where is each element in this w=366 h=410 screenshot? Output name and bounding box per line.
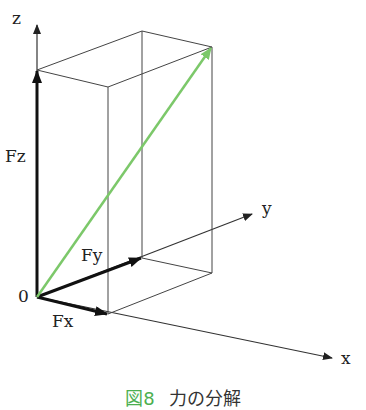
y-axis-label: y	[262, 200, 272, 217]
figure-title: 力の分解	[169, 388, 241, 409]
z-axis-label: z	[12, 10, 21, 27]
component-vectors	[37, 71, 141, 314]
resultant-force-vector	[37, 48, 211, 297]
x-axis-label: x	[341, 350, 351, 367]
origin-label: 0	[18, 288, 29, 305]
figure-caption: 図8力の分解	[0, 384, 366, 410]
figure-number: 図8	[125, 388, 154, 409]
fx-label: Fx	[52, 313, 73, 330]
x-axis	[37, 297, 332, 358]
fy-label: Fy	[81, 247, 102, 264]
fz-label: Fz	[5, 148, 26, 165]
